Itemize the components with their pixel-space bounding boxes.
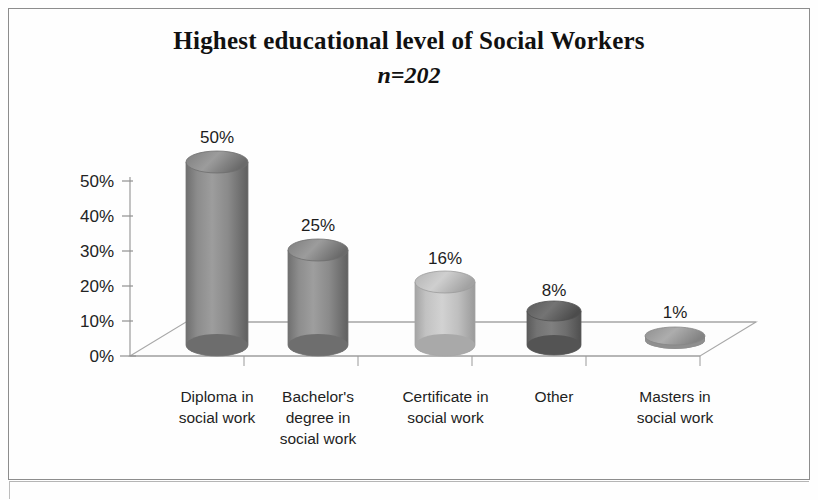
data-label-other: 8% — [524, 281, 584, 301]
x-category-label-bachelors-line3: social work — [253, 428, 383, 449]
x-category-label-bachelors: Bachelor's degree in social work — [253, 386, 383, 449]
bar-masters-in-social-work[interactable] — [645, 327, 705, 349]
x-category-label-masters-line1: Masters in — [610, 386, 740, 407]
bar-other[interactable] — [527, 301, 581, 355]
y-axis — [120, 177, 136, 356]
data-label-diploma: 50% — [182, 128, 252, 148]
x-category-label-masters: Masters in social work — [610, 386, 740, 428]
x-category-label-certificate-line2: social work — [378, 407, 513, 428]
bar-diploma-in-social-work[interactable] — [186, 151, 248, 356]
y-tick-label-10: 10% — [62, 312, 114, 332]
data-label-certificate: 16% — [410, 249, 480, 269]
chart-page: Highest educational level of Social Work… — [0, 0, 818, 500]
x-category-label-other: Other — [499, 386, 609, 407]
y-tick-label-0: 0% — [62, 347, 114, 367]
bar-certificate-in-social-work[interactable] — [415, 271, 475, 356]
y-tick-label-20: 20% — [62, 277, 114, 297]
y-tick-label-50: 50% — [62, 172, 114, 192]
y-tick-label-30: 30% — [62, 242, 114, 262]
plot-area: 50% 40% 30% 20% 10% 0% 50% 25% 16% 8% 1%… — [0, 0, 818, 500]
x-category-label-certificate: Certificate in social work — [378, 386, 513, 428]
x-category-label-other-line1: Other — [499, 386, 609, 407]
x-category-label-bachelors-line2: degree in — [253, 407, 383, 428]
bar-bachelors-degree-in-social-work[interactable] — [288, 239, 348, 356]
data-label-bachelors: 25% — [283, 216, 353, 236]
x-category-label-certificate-line1: Certificate in — [378, 386, 513, 407]
y-tick-label-40: 40% — [62, 207, 114, 227]
x-category-label-bachelors-line1: Bachelor's — [253, 386, 383, 407]
x-category-label-masters-line2: social work — [610, 407, 740, 428]
x-axis — [130, 356, 700, 366]
data-label-masters: 1% — [645, 303, 705, 323]
